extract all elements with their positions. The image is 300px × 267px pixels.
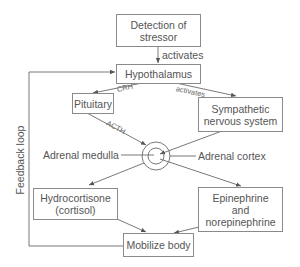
mobilize-body-label: Mobilize body [126, 239, 190, 251]
adrenal-outer-circle [142, 142, 170, 170]
mobilize-body-box: Mobilize body [123, 233, 194, 257]
arrow-adrenal-to-epinephrine [160, 159, 241, 186]
epinephrine-box: Epinephrine and norepinephrine [198, 187, 283, 232]
arrow-adrenal-to-hydrocortisone [89, 163, 144, 185]
arrow-hydrocortisone-to-mobilize [117, 219, 146, 232]
hypothalamus-label: Hypothalamus [125, 68, 192, 80]
detection-of-stressor-box: Detection of stressor [116, 14, 201, 47]
hydrocortisone-label: Hydrocortisone (cortisol) [36, 192, 116, 216]
sympathetic-nervous-system-label: Sympathetic nervous system [201, 103, 281, 127]
detection-of-stressor-label: Detection of stressor [129, 19, 189, 43]
adrenal-cortex-label: Adrenal cortex [198, 150, 266, 162]
sympathetic-nervous-system-box: Sympathetic nervous system [198, 97, 283, 132]
hydrocortisone-box: Hydrocortisone (cortisol) [33, 188, 118, 220]
activates-label-1: activates [162, 49, 203, 61]
adrenal-medulla-label: Adrenal medulla [43, 149, 119, 161]
adrenal-inner-circle [148, 148, 164, 164]
pituitary-label: Pituitary [74, 98, 112, 110]
pituitary-box: Pituitary [72, 93, 114, 114]
epinephrine-label: Epinephrine and norepinephrine [206, 192, 276, 228]
feedback-loop-label: Feedback loop [14, 125, 26, 195]
hypothalamus-box: Hypothalamus [116, 64, 201, 84]
